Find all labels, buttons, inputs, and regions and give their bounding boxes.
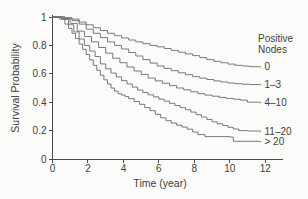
curve-label-nodes-11-20: 11–20 (265, 126, 293, 137)
y-tick-label: 0 (41, 154, 47, 165)
curve-nodes-1-3 (53, 17, 262, 85)
y-tick-label: 1 (41, 12, 47, 23)
survival-curve-figure: Survival Probability Time (year) Positiv… (0, 0, 308, 199)
y-tick-label: 0.4 (33, 97, 47, 108)
curve-label-nodes-gt-20: > 20 (265, 136, 285, 147)
curve-label-nodes-0: 0 (265, 61, 271, 72)
x-tick-label: 12 (260, 163, 272, 174)
curve-nodes-gt-20 (53, 17, 262, 142)
x-tick-label: 0 (50, 163, 56, 174)
legend-title-line1: Positive (258, 33, 293, 44)
curve-nodes-4-10 (53, 17, 262, 103)
survival-chart: Survival Probability Time (year) Positiv… (0, 0, 308, 199)
y-tick-label: 0.6 (33, 68, 47, 79)
curve-label-nodes-1-3: 1–3 (265, 79, 282, 90)
x-tick-label: 10 (224, 163, 236, 174)
survival-curves (53, 17, 262, 142)
curve-label-nodes-4-10: 4–10 (265, 97, 288, 108)
curve-labels: 01–34–1011–20> 20 (265, 61, 293, 147)
axis-tick-labels: 02468101200.20.40.60.81 (33, 12, 272, 175)
y-tick-label: 0.8 (33, 40, 47, 51)
legend-title-line2: Nodes (258, 44, 287, 55)
x-tick-label: 8 (192, 163, 198, 174)
x-tick-label: 6 (156, 163, 162, 174)
x-tick-label: 4 (121, 163, 127, 174)
x-axis-title: Time (year) (133, 177, 186, 189)
x-tick-label: 2 (85, 163, 91, 174)
y-tick-label: 0.2 (33, 125, 47, 136)
y-axis-title: Survival Probability (9, 43, 21, 133)
